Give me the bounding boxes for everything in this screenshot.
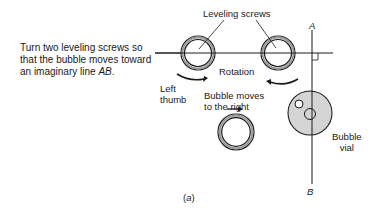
right-angle-marker [312, 53, 318, 60]
right-rotation-arrow [266, 79, 298, 85]
point-b-label: B [307, 186, 313, 197]
figure-caption: (a) [183, 192, 195, 203]
instruction-line-3: an imaginary line AB. [20, 66, 151, 78]
rotation-label: Rotation [219, 66, 254, 77]
bubble-vial [288, 91, 332, 135]
instruction-line-2: that the bubble moves toward [20, 54, 151, 66]
bubble [295, 100, 303, 108]
bubble-vial-label: Bubble vial [332, 131, 362, 153]
bubble-moves-label: Bubble moves to the right [204, 90, 264, 112]
left-rotation-arrow [177, 74, 208, 82]
leveling-screws-label: Leveling screws [203, 8, 271, 19]
right-leveling-screw [261, 36, 295, 70]
instruction-line-1: Turn two leveling screws so [20, 42, 151, 54]
instruction-text: Turn two leveling screws so that the bub… [20, 42, 151, 78]
third-leveling-screw [218, 114, 254, 150]
point-a-label: A [309, 20, 315, 31]
diagram-canvas [0, 0, 381, 222]
left-thumb-label: Left thumb [160, 83, 186, 105]
